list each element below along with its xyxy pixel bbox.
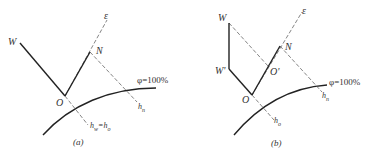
point-o-label-b: O: [242, 95, 249, 105]
hn-label-a: hn: [138, 103, 145, 113]
caption-a: (a): [73, 138, 84, 147]
hn-isenthalp-b: [280, 46, 322, 92]
phi-label-b: φ=100%: [329, 78, 360, 87]
ho-isenthalp-a: [65, 96, 88, 125]
ho-label-b: ho: [274, 117, 281, 127]
epsilon-label-b: ε: [302, 6, 306, 16]
point-n-label-a: N: [96, 46, 103, 56]
epsilon-label-a: ε: [104, 11, 108, 21]
point-oprime-label-b: O': [270, 67, 279, 77]
caption-b: (b): [271, 139, 282, 148]
line-o-n-a: [65, 52, 90, 96]
point-w-label-a: W: [8, 37, 16, 47]
point-o-label-a: O: [56, 98, 63, 108]
psychrometric-diagram: [0, 0, 373, 160]
point-n-label-b: N: [285, 42, 292, 52]
hn-label-b: hn: [322, 92, 329, 102]
line-wprime-o-b: [229, 69, 252, 95]
point-w-label-b: W: [218, 13, 226, 23]
point-wprime-label-b: W': [215, 66, 225, 76]
panel-a: [20, 20, 156, 135]
line-w-o-a: [20, 43, 65, 96]
hw-ho-label-a: hw=ho: [90, 122, 110, 132]
saturation-curve-b: [234, 85, 327, 135]
w-o-prime-dashed: [229, 23, 268, 66]
phi-label-a: φ=100%: [137, 76, 168, 85]
hn-isenthalp-a: [90, 52, 137, 102]
